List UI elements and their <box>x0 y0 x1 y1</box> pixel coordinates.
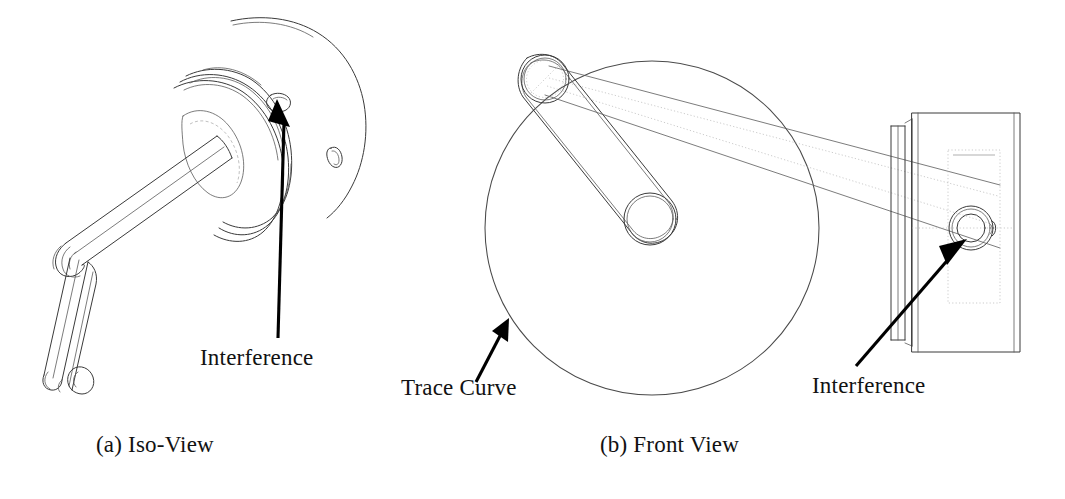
caption-front-view: (b) Front View <box>600 432 739 458</box>
crank-lower-pivot <box>624 193 676 245</box>
callout-label-trace-curve: Trace Curve <box>401 375 517 401</box>
iso-lower-link <box>43 258 97 394</box>
iso-backing-plate <box>231 18 366 218</box>
housing-side-view <box>891 113 1020 352</box>
projection-lines <box>545 66 1000 248</box>
crank-arm <box>518 54 678 243</box>
leader-trace-curve <box>476 318 509 382</box>
iso-view-drawing <box>43 18 366 394</box>
front-view-drawing <box>476 54 1020 395</box>
caption-iso-view: (a) Iso-View <box>96 432 214 458</box>
trace-curve-circle <box>485 61 819 395</box>
iso-upper-link <box>53 136 232 277</box>
callout-label-interference-iso: Interference <box>200 345 313 371</box>
crank-upper-pivot <box>521 55 569 103</box>
callout-label-interference-front: Interference <box>812 373 925 399</box>
figure-canvas <box>0 0 1065 499</box>
